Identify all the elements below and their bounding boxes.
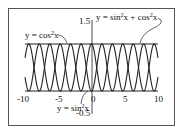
x-tick-label: -10 bbox=[17, 94, 29, 104]
y-tick-label: 1.5 bbox=[79, 16, 91, 26]
x-tick-label: 5 bbox=[123, 94, 128, 104]
chart-plot: -10 -5 0 5 10 1.5 -0.5 y = cos2x y = sin… bbox=[0, 0, 184, 134]
x-tick-label: 0 bbox=[91, 94, 96, 104]
annotation-sin-squared: y = sin2x bbox=[57, 103, 90, 113]
series-sin-squared bbox=[25, 44, 158, 91]
annotation-sum: y = sin2x + cos2x bbox=[96, 12, 158, 22]
annotation-arrow bbox=[58, 35, 67, 43]
annotation-cos-squared: y = cos2x bbox=[25, 30, 59, 40]
x-tick-label: 10 bbox=[154, 94, 164, 104]
